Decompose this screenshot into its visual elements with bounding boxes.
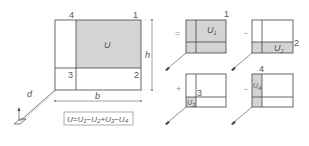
receiver-element-icon [231,67,236,71]
svg-text:3: 3 [197,88,202,98]
width-dimension: b [54,91,142,103]
panel-u4: − 4 U4 [231,64,293,125]
svg-text:2: 2 [294,38,299,48]
panel-u2: − 2 U2 [231,20,299,71]
width-label: b [95,91,100,101]
distance-line: d [20,89,57,121]
corner-label-3: 3 [68,70,73,80]
panel-u1: = 1 U1 [165,9,229,71]
corner-label-4: 4 [69,10,74,20]
plus-operator: + [176,84,181,94]
rectangular-source-view-factor-diagram: U 4 1 3 2 h b d [0,0,309,146]
height-label: h [145,50,150,60]
svg-text:4: 4 [259,64,264,74]
svg-text:1: 1 [224,9,229,19]
minus-operator: − [243,28,248,38]
area-label-u: U [104,40,111,50]
corner-label-2: 2 [134,70,139,80]
equals-operator: = [175,28,180,38]
receiver-element-icon [231,121,236,125]
main-figure: U 4 1 3 2 h b d [14,10,155,125]
receiver-element-icon [14,107,26,124]
height-dimension: h [142,19,155,91]
receiver-element-icon [165,67,170,71]
panel-u3: + 3 U3 [165,74,226,125]
corner-label-1: 1 [133,10,138,20]
formula-box: U=U1−U2+U3−U4 [64,112,133,125]
receiver-element-icon [165,121,170,125]
distance-label: d [27,89,33,99]
minus-operator: − [243,84,248,94]
